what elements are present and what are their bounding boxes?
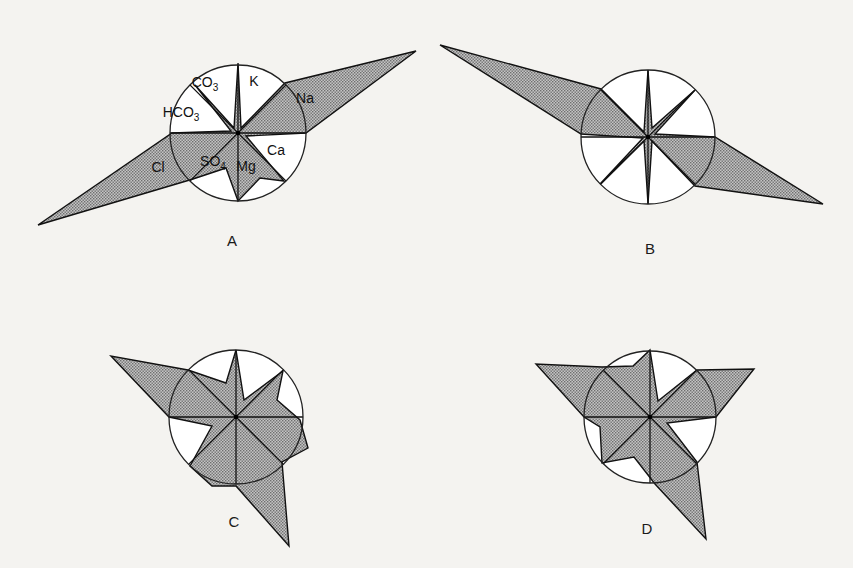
ion-label-ca: Ca [267,142,285,158]
stiff-pattern-figure: KNaCaMgSO4ClHCO3CO3ABCD [0,0,853,568]
center-point [646,135,650,139]
panel-label-b: B [645,240,655,257]
ion-label-k: K [249,73,259,89]
center-point [234,415,238,419]
panel-label-d: D [642,520,653,537]
panel-label-a: A [227,232,237,249]
ion-label-cl: Cl [151,159,164,175]
diagram-panel-a: KNaCaMgSO4ClHCO3CO3A [38,51,416,249]
diagram-panel-b: B [440,45,823,257]
diagram-panel-d: D [536,350,754,539]
ion-label-mg: Mg [236,158,255,174]
ion-pattern-polygon [536,350,754,539]
diagram-panel-c: C [111,350,308,546]
ion-pattern-polygon [111,350,308,546]
center-point [648,415,652,419]
ion-label-na: Na [296,90,314,106]
center-point [236,131,240,135]
panel-label-c: C [229,513,240,530]
